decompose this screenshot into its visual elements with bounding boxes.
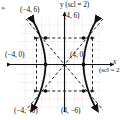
point-bottom-right <box>82 89 86 93</box>
figure-canvas: ▸ <box>0 0 127 120</box>
point-right-vertex <box>82 63 86 67</box>
label-y-axis: y (scl = 2) <box>60 1 89 8</box>
label-x-scale: (scl = 2 <box>99 67 120 74</box>
point-top-right <box>82 36 86 40</box>
label-point-right-vertex: (4, 0) <box>70 51 85 58</box>
label-point-top-right: (4, 6) <box>64 12 79 19</box>
point-top-left <box>44 36 48 40</box>
label-point-bottom-left: (−4, −6) <box>14 107 38 114</box>
label-point-left-vertex: (−4, 0) <box>5 51 24 58</box>
label-point-bottom-right: (4, −6) <box>61 107 80 114</box>
point-bottom-left <box>44 89 48 93</box>
label-point-top-left: (−4, 6) <box>20 6 39 13</box>
point-left-vertex <box>44 63 48 67</box>
label-x-axis: x <box>113 58 116 65</box>
